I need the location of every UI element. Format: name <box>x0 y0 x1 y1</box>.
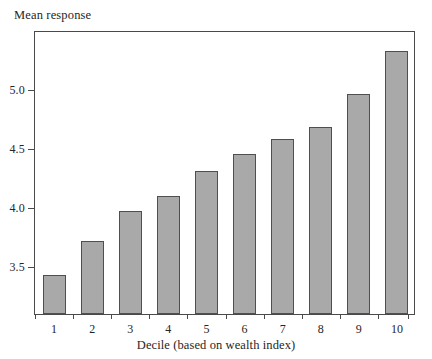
bar <box>43 275 66 314</box>
x-axis-tick <box>408 314 409 319</box>
x-axis-tick <box>340 314 341 319</box>
y-axis-tick <box>28 208 35 209</box>
x-axis-tick-label: 3 <box>127 322 133 337</box>
y-axis-tick <box>28 149 35 150</box>
x-axis-tick <box>264 314 265 319</box>
x-axis-tick-label: 10 <box>391 322 403 337</box>
x-axis-tick <box>149 314 150 319</box>
plot-area: 3.54.04.55.0 12345678910 <box>34 31 415 315</box>
bar <box>233 154 256 314</box>
x-axis-tick <box>73 314 74 319</box>
bar <box>157 196 180 314</box>
x-axis-label: Decile (based on wealth index) <box>0 338 432 353</box>
x-axis-tick <box>35 314 36 319</box>
x-axis-tick-label: 7 <box>280 322 286 337</box>
y-axis-tick <box>28 90 35 91</box>
x-axis-tick-label: 1 <box>51 322 57 337</box>
y-axis-tick <box>28 267 35 268</box>
x-axis-tick <box>226 314 227 319</box>
y-axis-label: Mean response <box>14 8 91 23</box>
bar <box>271 139 294 314</box>
bar <box>119 211 142 314</box>
x-axis-tick <box>378 314 379 319</box>
y-axis-tick-label: 4.0 <box>9 201 25 216</box>
bar-chart-figure: Mean response 3.54.04.55.0 12345678910 D… <box>0 0 432 359</box>
x-axis-tick-label: 9 <box>356 322 362 337</box>
bar <box>81 241 104 314</box>
x-axis-tick <box>302 314 303 319</box>
x-axis-tick-label: 5 <box>203 322 209 337</box>
x-axis-tick-label: 2 <box>89 322 95 337</box>
y-axis-tick-label: 4.5 <box>9 142 25 157</box>
bar <box>385 51 408 314</box>
x-axis-tick-label: 6 <box>242 322 248 337</box>
x-axis-tick <box>187 314 188 319</box>
x-axis-tick-label: 4 <box>165 322 171 337</box>
x-axis-tick <box>111 314 112 319</box>
bar <box>195 171 218 314</box>
x-axis-tick-label: 8 <box>318 322 324 337</box>
bar <box>347 94 370 314</box>
bar <box>309 127 332 314</box>
y-axis-tick-label: 3.5 <box>9 260 25 275</box>
y-axis-tick-label: 5.0 <box>9 82 25 97</box>
